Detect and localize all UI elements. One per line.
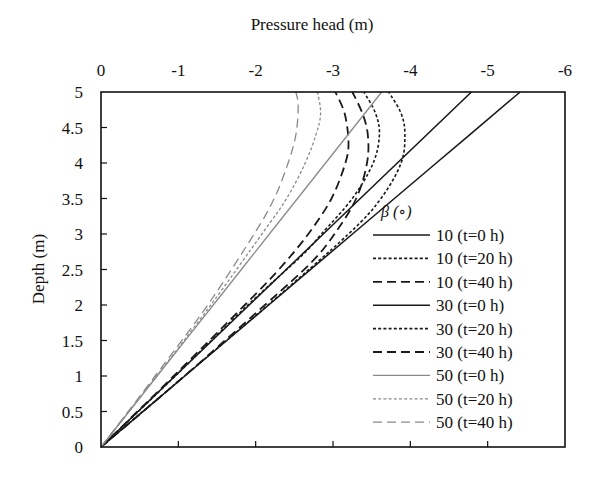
- x-tick-label: -4: [403, 61, 418, 80]
- legend-entry-label: 10 (t=20 h): [436, 249, 513, 268]
- legend-entry-label: 10 (t=0 h): [436, 226, 504, 245]
- x-tick-label: -3: [326, 61, 340, 80]
- y-tick-label: 4: [75, 154, 84, 173]
- x-tick-label: -6: [558, 61, 572, 80]
- y-axis-label: Depth (m): [29, 234, 48, 304]
- y-tick-label: 1: [75, 367, 84, 386]
- legend-entry-label: 10 (t=40 h): [436, 273, 513, 292]
- y-tick-label: 3: [75, 225, 84, 244]
- y-tick-label: 4.5: [62, 119, 83, 138]
- x-tick-label: -2: [249, 61, 263, 80]
- legend-entry-label: 30 (t=20 h): [436, 320, 513, 339]
- series-line: [101, 92, 368, 447]
- y-tick-label: 3.5: [62, 190, 83, 209]
- series-line: [101, 92, 298, 447]
- x-tick-label: -1: [171, 61, 185, 80]
- pressure-head-depth-chart: Pressure head (m) 0-1-2-3-4-5-6 00.511.5…: [0, 0, 602, 480]
- x-tick-label: 0: [97, 61, 106, 80]
- y-tick-label: 0: [75, 438, 84, 457]
- legend-entry-label: 50 (t=20 h): [436, 390, 513, 409]
- y-tick-label: 0.5: [62, 403, 83, 422]
- legend-entry-label: 30 (t=0 h): [436, 296, 504, 315]
- x-tick-labels: 0-1-2-3-4-5-6: [97, 61, 572, 80]
- x-tick-label: -5: [481, 61, 495, 80]
- legend-entry-label: 30 (t=40 h): [436, 343, 513, 362]
- y-tick-label: 2: [75, 296, 84, 315]
- legend-title: β (∘): [380, 203, 411, 221]
- legend-entry-label: 50 (t=40 h): [436, 413, 513, 432]
- y-tick-labels: 00.511.522.533.544.55: [62, 83, 84, 457]
- legend: 10 (t=0 h)10 (t=20 h)10 (t=40 h)30 (t=0 …: [370, 203, 560, 433]
- series-line: [101, 92, 405, 447]
- y-tick-label: 1.5: [62, 332, 83, 351]
- x-axis-label: Pressure head (m): [251, 15, 374, 34]
- y-tick-label: 2.5: [62, 261, 83, 280]
- y-tick-label: 5: [75, 83, 84, 102]
- legend-entry-label: 50 (t=0 h): [436, 366, 504, 385]
